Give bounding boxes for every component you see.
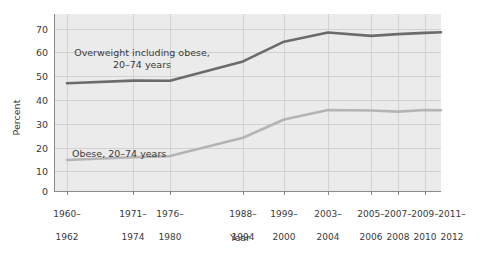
plot-area	[54, 14, 441, 192]
y-tick-label: 40	[22, 96, 48, 106]
x-tick-mark	[328, 191, 329, 195]
gridline-horizontal	[54, 171, 441, 172]
gridline-horizontal	[54, 76, 441, 77]
x-tick-label-top: 2003–	[314, 209, 341, 219]
x-tick-mark	[425, 191, 426, 195]
x-tick-mark	[398, 191, 399, 195]
gridline-vertical	[425, 14, 426, 192]
x-tick-label-top: 2011–	[438, 209, 465, 219]
y-tick-label: 10	[22, 167, 48, 177]
y-tick-label: 50	[22, 72, 48, 82]
gridline-vertical	[67, 14, 68, 192]
gridline-vertical	[398, 14, 399, 192]
gridline-vertical	[284, 14, 285, 192]
y-tick-label: 20	[22, 144, 48, 154]
gridline-vertical	[170, 14, 171, 192]
y-tick-label: 30	[22, 120, 48, 130]
y-tick-labels: 70 60 50 40 30 20 10 0	[20, 0, 48, 259]
x-tick-mark	[67, 191, 68, 195]
y-axis-line	[54, 14, 55, 192]
gridline-vertical	[133, 14, 134, 192]
x-axis-line	[54, 191, 441, 192]
gridline-vertical	[371, 14, 372, 192]
x-tick-mark	[133, 191, 134, 195]
y-tick-label: 0	[22, 187, 48, 197]
x-tick-label-top: 1971–	[119, 209, 146, 219]
chart-figure: 70 60 50 40 30 20 10 0 Percent 1960– 196…	[0, 0, 480, 259]
x-tick-mark	[284, 191, 285, 195]
gridline-horizontal	[54, 29, 441, 30]
annotation-overweight: Overweight including obese, 20–74 years	[72, 47, 212, 71]
annotation-obese: Obese, 20–74 years	[72, 148, 186, 160]
y-axis-title: Percent	[11, 88, 22, 148]
x-tick-mark	[243, 191, 244, 195]
gridline-vertical	[243, 14, 244, 192]
x-tick-label-top: 1960–	[53, 209, 80, 219]
gridline-vertical	[328, 14, 329, 192]
x-tick-label-top: 1976–	[156, 209, 183, 219]
y-tick-label: 60	[22, 48, 48, 58]
x-tick-mark	[371, 191, 372, 195]
x-tick-label-top: 1988–	[229, 209, 256, 219]
x-tick-label-top: 1999–	[270, 209, 297, 219]
y-tick-label: 70	[22, 25, 48, 35]
gridline-horizontal	[54, 100, 441, 101]
x-axis-title: Year	[0, 232, 480, 243]
x-tick-mark	[170, 191, 171, 195]
gridline-horizontal	[54, 124, 441, 125]
